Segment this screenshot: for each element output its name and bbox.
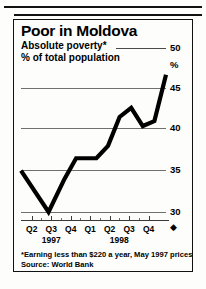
chart-figure: Poor in Moldova Absolute poverty* % of t… [0,0,206,289]
x-axis-tick-minor [41,218,42,220]
x-axis-quarter-label: Q4 [61,224,81,234]
x-axis-line [21,220,169,221]
x-axis-tick-major [51,216,52,220]
x-axis-tick-minor [119,218,120,220]
x-axis-tick-major [32,216,33,220]
x-axis-tick-major [110,216,111,220]
x-axis-tick-major [129,216,130,220]
source-text: Source: World Bank [21,260,189,270]
x-axis-tick-minor [80,218,81,220]
x-axis-quarter-label: Q3 [119,224,139,234]
x-axis-quarter-label: Q4 [139,224,159,234]
x-axis-year-labels: 19971998 [21,235,169,247]
x-axis-tick-major [90,216,91,220]
footnote-text: *Earning less than $220 a year, May 1997… [21,250,189,260]
axis-arrow-icon: ◆ [170,222,177,232]
plot-area [21,46,166,216]
top-rule-primary [4,6,202,8]
page-title: Poor in Moldova [21,22,137,39]
poverty-line-series [21,46,166,218]
x-axis-tick-major [71,216,72,220]
x-axis-quarter-label: Q3 [41,224,61,234]
top-rule-secondary [14,14,202,16]
x-axis-tick-minor [100,218,101,220]
y-axis-tick-30: 30 [170,207,181,217]
x-axis-tick-major [149,216,150,220]
y-axis-percent-symbol: % [170,60,178,70]
x-axis-tick-minor [139,218,140,220]
y-axis-tick-45: 45 [170,83,181,93]
x-axis-quarter-label: Q2 [22,224,42,234]
y-axis-tick-35: 35 [170,165,181,175]
x-axis-quarter-label: Q2 [100,224,120,234]
y-axis-tick-50: 50 [170,43,181,53]
x-axis-year-label: 1997 [34,235,68,245]
x-axis-year-label: 1998 [102,235,136,245]
footnote-block: *Earning less than $220 a year, May 1997… [21,250,189,269]
x-axis-tick-minor [61,218,62,220]
y-axis-tick-40: 40 [170,123,181,133]
x-axis-quarter-label: Q1 [80,224,100,234]
